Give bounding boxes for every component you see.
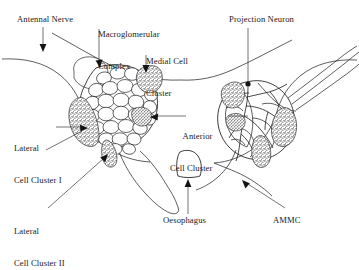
label-lateral-cell-cluster-ii-line1: Lateral xyxy=(14,226,65,237)
label-medial-cell-cluster-line1: Medial Cell xyxy=(146,56,188,67)
label-medial-cell-cluster: Medial Cell Cluster xyxy=(146,35,188,119)
label-anterior-cell-cluster: Anterior Cell Cluster xyxy=(170,110,213,194)
label-ammc: AMMC xyxy=(273,215,301,226)
right-antennal-lobe xyxy=(218,46,359,167)
arrowhead-ammc xyxy=(242,180,250,188)
arrowhead-antennal-nerve xyxy=(40,44,47,52)
label-lateral-cell-cluster-ii-line2: Cell Cluster II xyxy=(14,258,65,269)
label-projection-neuron: Projection Neuron xyxy=(229,14,294,25)
medial-cell-cluster-right xyxy=(221,82,244,108)
projection-neuron-soma xyxy=(245,81,250,86)
label-medial-cell-cluster-line2: Cluster xyxy=(146,88,188,99)
label-anterior-cell-cluster-line2: Cell Cluster xyxy=(170,163,213,174)
label-anterior-cell-cluster-line1: Anterior xyxy=(170,131,213,142)
label-lateral-cell-cluster-ii: Lateral Cell Cluster II xyxy=(14,205,65,270)
label-lateral-cell-cluster-i: Lateral Cell Cluster I xyxy=(14,122,62,206)
right-antennal-nerve xyxy=(288,46,359,110)
label-oesophagus: Oesophagus xyxy=(163,215,206,226)
ventral-cell-cluster-right xyxy=(252,136,271,168)
lateral-cell-cluster-right xyxy=(271,108,296,147)
label-lateral-cell-cluster-i-line2: Cell Cluster I xyxy=(14,175,62,186)
leader-ammc xyxy=(248,184,285,208)
label-lateral-cell-cluster-i-line1: Lateral xyxy=(14,143,62,154)
label-antennal-nerve: Antennal Nerve xyxy=(17,14,73,25)
